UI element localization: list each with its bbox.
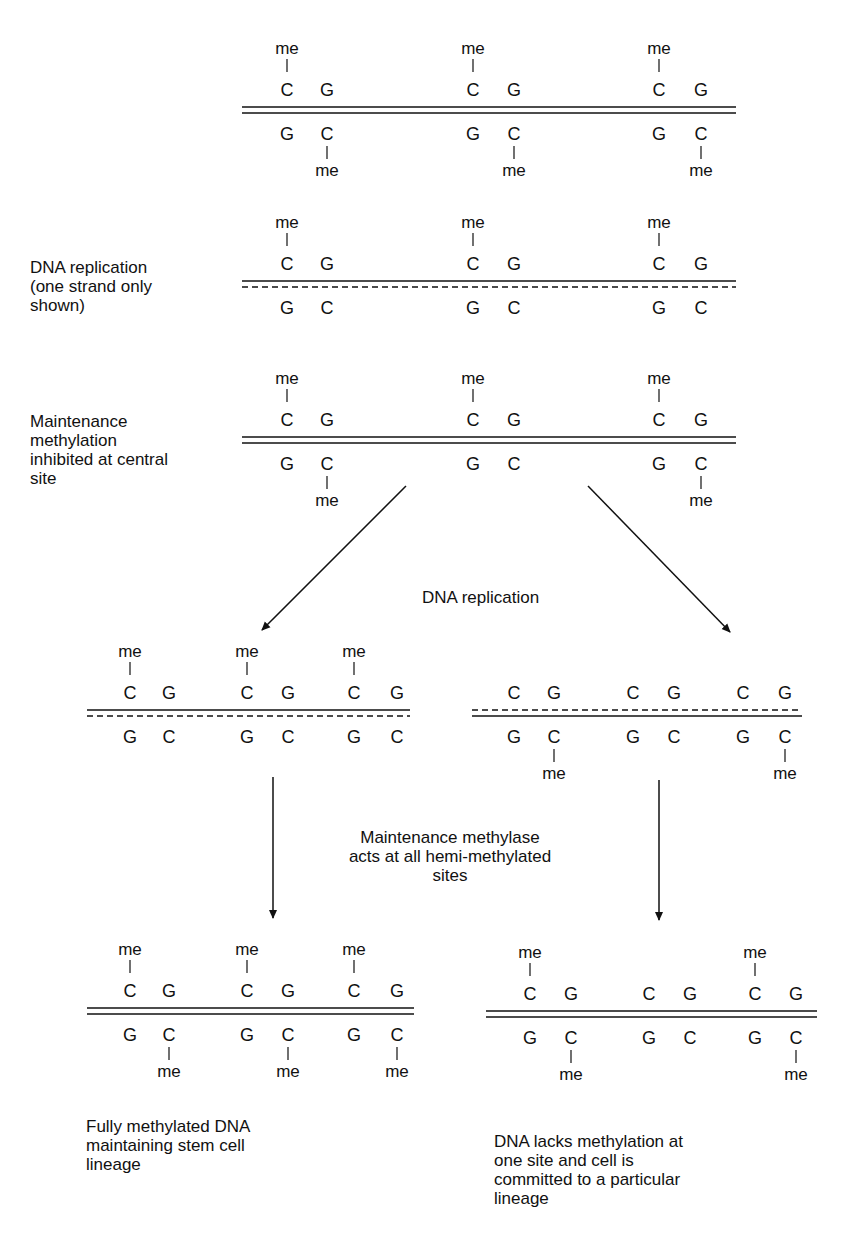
cpg-site: CGGCmeme	[647, 39, 713, 180]
guanine-bottom: G	[523, 1028, 537, 1048]
dna-duplex-parent-fully-methylated: CGGCmemeCGGCmemeCGGCmeme	[242, 39, 736, 180]
label-outcome-stem-cell: Fully methylated DNA maintaining stem ce…	[86, 1117, 250, 1174]
cpg-site: CGGCme	[275, 213, 334, 318]
methyl-label-bottom: me	[315, 491, 339, 510]
guanine-top: G	[390, 981, 404, 1001]
guanine-top: G	[683, 984, 697, 1004]
cytosine-top: C	[737, 683, 750, 703]
cytosine-bottom: C	[321, 124, 334, 144]
guanine-bottom: G	[280, 124, 294, 144]
guanine-bottom: G	[507, 727, 521, 747]
cytosine-top: C	[508, 683, 521, 703]
methyl-label-bottom: me	[689, 491, 713, 510]
guanine-top: G	[778, 683, 792, 703]
cytosine-top: C	[653, 410, 666, 430]
cpg-site: CGGCme	[461, 213, 521, 318]
guanine-top: G	[694, 80, 708, 100]
cytosine-bottom: C	[779, 727, 792, 747]
methyl-label-top: me	[118, 940, 142, 959]
guanine-bottom: G	[626, 727, 640, 747]
cpg-site: CGGCmeme	[275, 39, 339, 180]
cytosine-bottom: C	[695, 298, 708, 318]
methyl-label-bottom: me	[276, 1062, 300, 1081]
guanine-top: G	[281, 683, 295, 703]
dna-duplex-right-daughter-hemimethylated: CGGCmeCGGCCGGCme	[472, 683, 802, 783]
guanine-top: G	[162, 683, 176, 703]
cytosine-bottom: C	[695, 454, 708, 474]
guanine-top: G	[694, 254, 708, 274]
dna-duplex-central-site-inhibited: CGGCmemeCGGCmeCGGCmeme	[242, 369, 736, 510]
cytosine-bottom: C	[282, 1025, 295, 1045]
guanine-top: G	[507, 80, 521, 100]
cytosine-top: C	[281, 80, 294, 100]
methyl-label-top: me	[235, 642, 259, 661]
label-branch-dna-replication: DNA replication	[422, 588, 539, 607]
cpg-site: CGGCmeme	[118, 940, 181, 1081]
methyl-label-bottom: me	[689, 161, 713, 180]
dna-duplex-hemimethylated-after-replication: CGGCmeCGGCmeCGGCme	[242, 213, 736, 318]
cpg-site: CGGCme	[461, 369, 521, 474]
cpg-site: CGGCmeme	[342, 940, 409, 1081]
guanine-top: G	[507, 410, 521, 430]
cytosine-top: C	[348, 683, 361, 703]
cpg-site: CGGCme	[507, 683, 566, 783]
guanine-top: G	[789, 984, 803, 1004]
guanine-top: G	[547, 683, 561, 703]
cpg-site: CGGCme	[647, 213, 708, 318]
cytosine-top: C	[653, 80, 666, 100]
cpg-site: CGGC	[626, 683, 681, 747]
methyl-label-bottom: me	[385, 1062, 409, 1081]
cytosine-bottom: C	[282, 727, 295, 747]
cytosine-bottom: C	[548, 727, 561, 747]
cytosine-bottom: C	[163, 727, 176, 747]
guanine-bottom: G	[466, 124, 480, 144]
cytosine-top: C	[749, 984, 762, 1004]
cytosine-top: C	[653, 254, 666, 274]
guanine-bottom: G	[240, 727, 254, 747]
methyl-label-top: me	[647, 369, 671, 388]
guanine-top: G	[162, 981, 176, 1001]
methyl-label-bottom: me	[502, 161, 526, 180]
dna-duplex-right-committed-lineage: CGGCmemeCGGCCGGCmeme	[486, 943, 817, 1084]
cytosine-bottom: C	[321, 454, 334, 474]
guanine-bottom: G	[347, 727, 361, 747]
guanine-bottom: G	[652, 124, 666, 144]
guanine-top: G	[507, 254, 521, 274]
guanine-bottom: G	[466, 454, 480, 474]
methyl-label-top: me	[461, 39, 485, 58]
cytosine-top: C	[241, 981, 254, 1001]
methyl-label-top: me	[275, 39, 299, 58]
methyl-label-top: me	[743, 943, 767, 962]
cpg-site: CGGCmeme	[743, 943, 808, 1084]
cytosine-bottom: C	[508, 298, 521, 318]
methyl-label-bottom: me	[559, 1065, 583, 1084]
dna-duplex-layer: CGGCmemeCGGCmemeCGGCmemeCGGCmeCGGCmeCGGC…	[87, 39, 817, 1084]
guanine-top: G	[320, 80, 334, 100]
cytosine-top: C	[124, 981, 137, 1001]
methyl-label-top: me	[647, 39, 671, 58]
cytosine-top: C	[467, 410, 480, 430]
guanine-bottom: G	[642, 1028, 656, 1048]
guanine-bottom: G	[280, 454, 294, 474]
guanine-bottom: G	[123, 727, 137, 747]
cpg-site: CGGCme	[342, 642, 404, 747]
guanine-bottom: G	[652, 454, 666, 474]
guanine-top: G	[667, 683, 681, 703]
dna-duplex-left-daughter-hemimethylated: CGGCmeCGGCmeCGGCme	[87, 642, 410, 747]
cytosine-bottom: C	[391, 1025, 404, 1045]
methyl-label-top: me	[275, 213, 299, 232]
methyl-label-bottom: me	[773, 764, 797, 783]
guanine-bottom: G	[736, 727, 750, 747]
guanine-top: G	[390, 683, 404, 703]
cytosine-bottom: C	[684, 1028, 697, 1048]
guanine-top: G	[694, 410, 708, 430]
cytosine-top: C	[281, 410, 294, 430]
methyl-label-top: me	[461, 369, 485, 388]
cytosine-bottom: C	[163, 1025, 176, 1045]
cytosine-top: C	[124, 683, 137, 703]
cytosine-top: C	[467, 254, 480, 274]
cpg-site: CGGCmeme	[275, 369, 339, 510]
dna-duplex-left-fully-methylated: CGGCmemeCGGCmemeCGGCmeme	[87, 940, 414, 1081]
diagram-canvas: CGGCmemeCGGCmemeCGGCmemeCGGCmeCGGCmeCGGC…	[0, 0, 850, 1240]
cytosine-bottom: C	[790, 1028, 803, 1048]
